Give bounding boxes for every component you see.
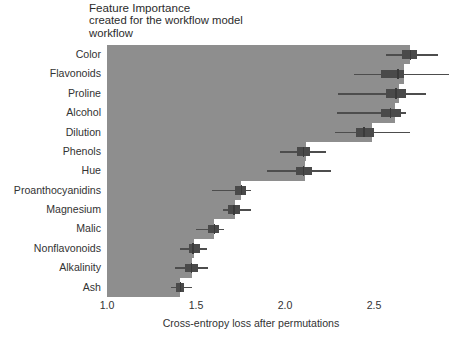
bar-row [107, 239, 454, 258]
bar-row [107, 64, 454, 83]
bar-background-fill [241, 181, 415, 200]
median-line [390, 108, 391, 118]
y-axis-tick-label: Phenols [63, 142, 101, 161]
median-line [410, 50, 411, 60]
median-line [303, 166, 304, 176]
bar-background-fill [180, 278, 414, 297]
median-line [397, 69, 398, 79]
median-line [191, 263, 192, 273]
y-axis-tick-label: Proanthocyanidins [14, 181, 101, 200]
median-line [303, 147, 304, 157]
median-line [214, 224, 215, 234]
feature-importance-chart: Feature Importance created for the workf… [0, 0, 454, 345]
y-axis-labels: ColorFlavonoidsProlineAlcoholDilutionPhe… [0, 45, 101, 297]
whisker-line [338, 93, 425, 95]
importance-bar[interactable] [107, 123, 372, 142]
bar-row [107, 278, 454, 297]
chart-title-block: Feature Importance created for the workf… [89, 1, 243, 41]
y-axis-tick-label: Proline [68, 84, 101, 103]
median-line [395, 88, 396, 98]
y-axis-tick-label: Magnesium [46, 200, 101, 219]
bar-row [107, 84, 454, 103]
x-axis-title: Cross-entropy loss after permutations [0, 317, 454, 329]
chart-title: Feature Importance [89, 1, 243, 14]
bar-row [107, 103, 454, 122]
median-line [192, 243, 193, 253]
median-line [233, 205, 234, 215]
y-axis-tick-label: Hue [82, 161, 101, 180]
x-axis-tick-label: 2.5 [367, 299, 382, 311]
chart-subtitle: created for the workflow model [89, 14, 243, 27]
x-axis-tick-label: 2.0 [278, 299, 293, 311]
importance-bar[interactable] [107, 45, 410, 64]
y-axis-tick-label: Color [76, 45, 101, 64]
bar-row [107, 45, 454, 64]
median-line [363, 127, 364, 137]
bar-row [107, 142, 454, 161]
box-iqr [381, 70, 404, 79]
box-iqr [189, 244, 200, 253]
y-axis-tick-label: Alcohol [66, 103, 101, 122]
box-iqr [356, 128, 374, 137]
bar-row [107, 181, 454, 200]
bar-row [107, 200, 454, 219]
bar-row [107, 123, 454, 142]
x-axis-ticks: 1.01.52.02.5 [0, 299, 454, 315]
chart-subtitle-2: workflow [89, 27, 243, 40]
importance-bar[interactable] [107, 142, 306, 161]
median-line [180, 282, 181, 292]
bar-background-fill [192, 258, 414, 277]
importance-bar[interactable] [107, 200, 235, 219]
y-axis-tick-label: Malic [76, 219, 101, 238]
x-axis-tick-label: 1.5 [189, 299, 204, 311]
bars-overlay [107, 45, 454, 297]
x-axis-tick-label: 1.0 [100, 299, 115, 311]
y-axis-tick-label: Flavonoids [50, 64, 101, 83]
y-axis-tick-label: Nonflavonoids [34, 239, 101, 258]
y-axis-tick-label: Ash [83, 278, 101, 297]
bar-row [107, 219, 454, 238]
bar-row [107, 258, 454, 277]
bar-background-fill [194, 239, 414, 258]
bar-background-fill [235, 200, 414, 219]
median-line [241, 185, 242, 195]
bar-row [107, 161, 454, 180]
y-axis-tick-label: Alkalinity [59, 258, 101, 277]
importance-bar[interactable] [107, 278, 180, 297]
x-axis-title-text: Cross-entropy loss after permutations [163, 317, 340, 329]
y-axis-tick-label: Dilution [66, 123, 101, 142]
bar-background-fill [214, 219, 414, 238]
